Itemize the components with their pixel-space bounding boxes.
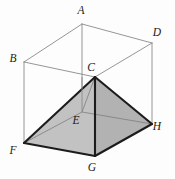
vertex-label-F: F xyxy=(8,144,17,156)
vertex-label-B: B xyxy=(9,52,16,64)
vertex-label-D: D xyxy=(152,26,162,38)
vertex-label-A: A xyxy=(76,4,85,16)
vertex-label-E: E xyxy=(71,114,79,126)
geometry-figure: A B C D E F G H xyxy=(0,0,175,179)
vertex-label-H: H xyxy=(152,120,162,132)
vertex-label-G: G xyxy=(88,161,97,173)
figure-canvas: A B C D E F G H xyxy=(0,0,175,179)
vertex-label-C: C xyxy=(87,61,95,73)
